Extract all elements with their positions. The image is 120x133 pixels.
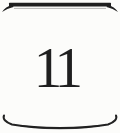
page-number: 11 — [0, 39, 111, 96]
scanned-page-fragment: 11 — [0, 0, 120, 133]
top-rule-flourish-ornament — [0, 0, 120, 14]
top-rule-bar — [9, 3, 111, 7]
bottom-rule-flourish-ornament — [0, 111, 120, 133]
top-rule-left-curl — [2, 5, 14, 12]
top-rule-right-curl — [107, 5, 119, 12]
